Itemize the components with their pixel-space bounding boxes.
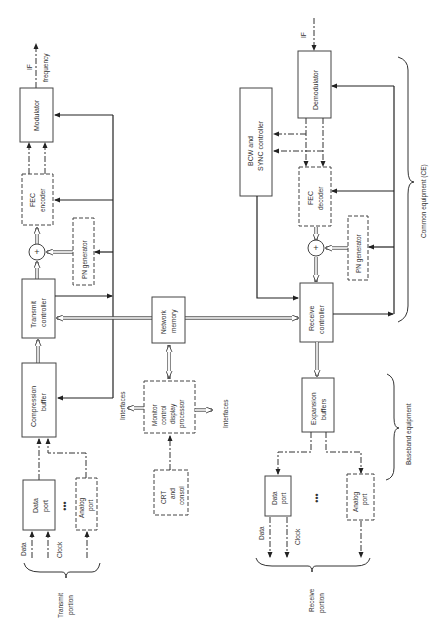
transmit-portion-label-2: portion xyxy=(67,595,75,615)
receive-portion-brace xyxy=(256,558,370,572)
transmit-controller-label-2: controller xyxy=(40,298,47,327)
compression-buffer-block: Compression buffer xyxy=(22,363,56,437)
crt-label-2: and xyxy=(169,488,176,499)
data-port-rx-label-2: port xyxy=(280,493,288,504)
clock-output-label: Clock xyxy=(294,528,301,545)
fec-decoder-block: FEC decoder xyxy=(299,167,331,226)
pn-generator-tx-label: PN generator xyxy=(81,240,89,279)
frequency-label: frequency xyxy=(42,53,50,82)
network-memory-block: Network memory xyxy=(152,297,185,343)
monitor-label-2: control xyxy=(160,405,167,425)
pn-generator-rx-block: PN generator xyxy=(348,216,368,280)
bcw-sync-controller-block: BCW and SYNC controller xyxy=(240,88,272,196)
interfaces-right-label: Interfaces xyxy=(222,399,229,428)
compression-buffer-label-1: Compression xyxy=(30,386,38,427)
transmit-controller-label-1: Transmit xyxy=(30,301,37,328)
transmit-controller-block: Transmit controller xyxy=(22,279,55,338)
clock-input-label: Clock xyxy=(56,541,63,558)
transmit-portion-label-1: Transmit xyxy=(57,593,64,618)
analog-port-tx-label-1: Analog xyxy=(78,497,86,518)
pn-generator-tx-block: PN generator xyxy=(73,218,94,285)
baseband-equipment-label: Baseband equipment xyxy=(405,403,413,465)
monitor-label-1: Monitor xyxy=(151,403,158,426)
xor-symbol-rx: + xyxy=(313,243,318,253)
analog-port-rx-label-2: port xyxy=(361,494,369,505)
xor-combiner-tx: + xyxy=(29,244,45,260)
bcw-sync-label-2: SYNC controller xyxy=(257,120,264,171)
fec-decoder-label-1: FEC xyxy=(307,191,314,205)
data-port-tx-label-2: port xyxy=(42,500,50,512)
ellipsis-rx: ••• xyxy=(312,493,322,502)
bcw-sync-label-1: BCW and xyxy=(247,136,254,166)
xor-combiner-rx: + xyxy=(308,240,324,256)
fec-encoder-block: FEC encoder xyxy=(22,174,53,225)
svg-text:encoder: encoder xyxy=(39,188,46,212)
data-port-rx-label-1: Data xyxy=(271,491,278,505)
ellipsis-tx: ••• xyxy=(60,501,70,510)
if-input-label: IF xyxy=(300,32,307,38)
expansion-buffers-block: Expansion buffers xyxy=(302,378,334,432)
network-memory-label-1: Network xyxy=(160,309,167,334)
common-equipment-label: Common equipment (CE) xyxy=(420,164,428,238)
common-equipment-brace xyxy=(398,57,414,322)
interfaces-left-label: Interfaces xyxy=(119,391,126,420)
receive-controller-label-1: Receive xyxy=(308,306,315,331)
pn-generator-rx-label: PN generator xyxy=(355,234,363,273)
baseband-equipment-brace xyxy=(386,374,399,480)
expansion-buffers-label-1: Expansion xyxy=(310,392,318,425)
data-port-tx-label-1: Data xyxy=(32,498,39,513)
crt-and-consol-block: CRT and consol xyxy=(154,470,188,515)
crt-label-3: consol xyxy=(178,486,185,505)
data-output-label: Data xyxy=(258,526,265,540)
fec-decoder-label-2: decoder xyxy=(317,186,324,210)
receive-portion-label-1: Receive xyxy=(308,588,315,612)
network-memory-label-2: memory xyxy=(170,309,178,333)
receive-controller-block: Receive controller xyxy=(300,283,333,342)
demodulator-block: Demodulator xyxy=(298,51,331,118)
xor-symbol: + xyxy=(34,247,39,257)
monitor-control-display-processor-block: Monitor control display processor xyxy=(144,381,195,433)
expansion-buffers-label-2: buffers xyxy=(320,398,327,420)
fec-encoder-label-2: encoder xyxy=(39,188,46,212)
analog-port-rx-label-1: Analog xyxy=(352,491,360,512)
analog-port-tx-block: Analog port xyxy=(76,478,97,530)
analog-port-rx-block: Analog port xyxy=(347,474,374,520)
data-input-label: Data xyxy=(20,542,27,556)
monitor-label-3: display xyxy=(169,403,177,424)
compression-buffer-label-2: buffer xyxy=(40,393,47,411)
fec-encoder-label-1: FEC xyxy=(29,193,36,207)
modulator-block: Modulator xyxy=(20,88,53,142)
data-port-tx-block: Data port xyxy=(23,480,55,530)
svg-text:FEC: FEC xyxy=(29,193,36,207)
if-output-label: IF xyxy=(26,64,33,70)
transmit-portion-brace xyxy=(24,563,100,578)
modulator-label: Modulator xyxy=(33,99,40,131)
satellite-terminal-block-diagram: IF frequency Modulator FEC encoder + PN … xyxy=(0,0,432,629)
crt-label-1: CRT xyxy=(160,491,167,504)
analog-port-tx-label-2: port xyxy=(87,500,95,511)
data-port-rx-block: Data port xyxy=(265,476,291,516)
receive-controller-label-2: controller xyxy=(318,305,325,334)
receive-portion-label-2: portion xyxy=(318,593,326,613)
demodulator-label: Demodulator xyxy=(312,69,319,110)
monitor-label-4: processor xyxy=(178,399,186,428)
